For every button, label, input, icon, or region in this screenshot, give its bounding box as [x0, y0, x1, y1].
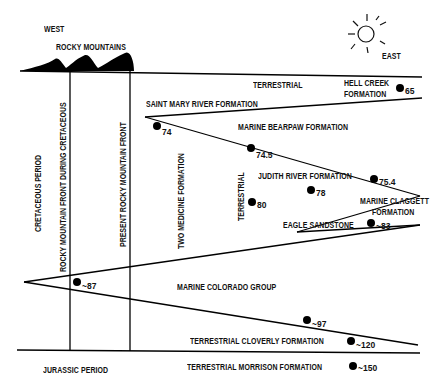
eagle-sandstone-label: EAGLE SANDSTONE [283, 220, 354, 230]
age-point-150 [349, 362, 357, 370]
age-74: 74 [162, 127, 171, 137]
age-83: ~83 [376, 221, 390, 231]
age-point-97 [303, 316, 311, 324]
age-point-65 [396, 84, 404, 92]
age-120: ~120 [356, 340, 375, 350]
age-point-78 [307, 186, 315, 194]
cloverly-label: TERRESTRIAL CLOVERLY FORMATION [190, 336, 324, 346]
mountains-icon [20, 52, 134, 71]
age-74-5: 74.5 [256, 150, 273, 160]
east-label: EAST [382, 51, 401, 61]
age-78: 78 [316, 188, 325, 198]
saint-mary-label: SAINT MARY RIVER FORMATION [146, 99, 258, 109]
morrison-label: TERRESTRIAL MORRISON FORMATION [187, 362, 322, 372]
rocky-mountains-label: ROCKY MOUNTAINS [56, 42, 126, 52]
hell-creek-label-2: FORMATION [344, 89, 386, 99]
stratigraphy-diagram: WEST ROCKY MOUNTAINS EAST CRETACEOUS PER… [0, 0, 445, 392]
jurassic-period-label: JURASSIC PERIOD [43, 365, 108, 375]
age-150: ~150 [358, 363, 377, 373]
hell-creek-label-1: HELL CREEK [344, 78, 389, 88]
two-medicine-label: TWO MEDICINE FORMATION [176, 153, 186, 249]
judith-river-label: JUDITH RIVER FORMATION [258, 171, 352, 181]
sun-icon [348, 14, 386, 53]
age-65: 65 [405, 86, 414, 96]
terrestrial-top-label: TERRESTRIAL [253, 80, 303, 90]
age-point-120 [347, 337, 355, 345]
age-97: ~97 [312, 319, 326, 329]
age-point-74 [153, 122, 161, 130]
cretaceous-period-label: CRETACEOUS PERIOD [33, 155, 43, 232]
age-point-87 [73, 278, 81, 286]
cretaceous-front-label: ROCKY MOUNTAIN FRONT DURING CRETACEOUS [58, 102, 68, 272]
present-front-label: PRESENT ROCKY MOUNTAIN FRONT [118, 122, 128, 247]
west-label: WEST [44, 24, 64, 34]
age-75-4: 75.4 [379, 177, 396, 187]
terrestrial-mid-label: TERRESTRIAL [236, 172, 246, 221]
colorado-group-label: MARINE COLORADO GROUP [177, 282, 276, 292]
age-point-75-4 [370, 175, 378, 183]
age-point-80 [248, 198, 256, 206]
age-point-74-5 [247, 144, 255, 152]
age-87: ~87 [82, 281, 96, 291]
age-point-83 [367, 219, 375, 227]
age-80: 80 [257, 200, 266, 210]
bearpaw-label: MARINE BEARPAW FORMATION [238, 122, 348, 132]
claggett-label-2: FORMATION [372, 207, 414, 217]
claggett-label-1: MARINE CLAGGETT [360, 196, 429, 206]
